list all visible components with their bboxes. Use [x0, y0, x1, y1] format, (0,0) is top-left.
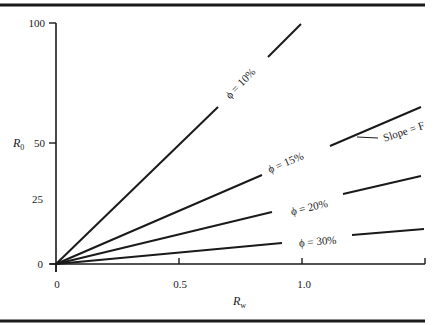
series-label-phi-10: ϕ = 10%	[223, 66, 258, 101]
chart-figure: 100 50 25 0 R0 0 0.5 1.0 Rw ϕ = 1	[0, 0, 438, 325]
series-phi-30: ϕ = 30%	[56, 229, 424, 264]
y-axis-title: R0	[12, 136, 24, 152]
x-axis: 0 0.5 1.0 Rw	[50, 258, 425, 310]
y-tick-label-100: 100	[29, 17, 46, 29]
series-label-phi-30: ϕ = 30%	[298, 233, 337, 248]
y-tick-label-25: 25	[32, 193, 44, 205]
y-tick-label-50: 50	[34, 137, 46, 149]
series-phi-10: ϕ = 10%	[56, 24, 301, 264]
x-tick-label-0.5: 0.5	[173, 278, 187, 290]
x-tick-label-0: 0	[54, 278, 60, 290]
slope-annotation-label: Slope = F	[382, 119, 426, 144]
y-tick-label-0: 0	[38, 258, 44, 270]
series-label-phi-15: ϕ = 15%	[266, 149, 305, 175]
series-phi-20: ϕ = 20%	[56, 176, 421, 264]
slope-annotation: Slope = F	[357, 119, 426, 144]
x-axis-title: Rw	[232, 294, 246, 310]
chart-canvas: 100 50 25 0 R0 0 0.5 1.0 Rw ϕ = 1	[0, 0, 438, 325]
series-label-phi-20: ϕ = 20%	[289, 197, 328, 217]
y-axis: 100 50 25 0 R0	[12, 17, 56, 272]
x-tick-label-1.0: 1.0	[297, 278, 311, 290]
series-phi-15: ϕ = 15%	[56, 107, 421, 264]
